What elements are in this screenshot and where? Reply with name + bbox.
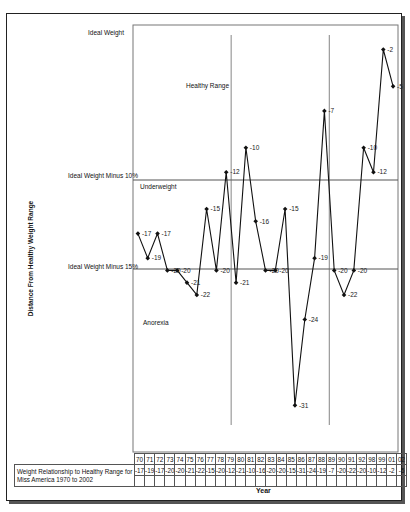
data-point-marker [234, 280, 239, 285]
ideal-weight-label: Ideal Weight [88, 29, 124, 36]
table-year-cell: 71 [145, 454, 155, 465]
table-empty-cell [367, 476, 377, 487]
data-point-marker [155, 231, 160, 236]
data-point-marker [322, 109, 327, 114]
y-axis-label: Distance From Healthy Weight Range [27, 179, 34, 339]
table-value-cell: -19 [145, 465, 155, 476]
data-label: -20 [358, 267, 368, 274]
table-year-cell: 91 [346, 454, 356, 465]
table-value-cell: -31 [296, 465, 306, 476]
data-point-marker [145, 256, 150, 261]
table-empty-cell [236, 476, 246, 487]
data-label: -20 [338, 267, 348, 274]
table-value-cell: -20 [357, 465, 367, 476]
table-value-cell: -20 [336, 465, 346, 476]
table-empty-cell [145, 476, 155, 487]
table-row-header: Weight Relationship to Healthy Range for… [15, 465, 135, 487]
table-value-cell: -24 [306, 465, 316, 476]
table-year-cell: 82 [256, 454, 266, 465]
minus15-label: Ideal Weight Minus 15% [68, 263, 138, 270]
data-point-marker [312, 256, 317, 261]
data-point-marker [381, 47, 386, 52]
table-empty-cell [387, 476, 397, 487]
table-year-cell: 01 [387, 454, 397, 465]
table-value-cell: -20 [266, 465, 276, 476]
healthy-range-label: Healthy Range [186, 82, 229, 89]
series-line [138, 50, 393, 406]
table-value-cell: -20 [215, 465, 225, 476]
data-label: -17 [162, 230, 172, 237]
table-value-cell: -12 [225, 465, 235, 476]
data-label: -7 [328, 107, 334, 114]
data-label: -12 [230, 168, 240, 175]
data-label: -15 [211, 205, 221, 212]
data-label: -16 [260, 218, 270, 225]
table-year-cell: 02 [397, 454, 407, 465]
data-label: -10 [250, 144, 260, 151]
data-label: -22 [348, 291, 358, 298]
table-value-cell: -7 [327, 465, 337, 476]
data-table: 7071727374757677787980818283848586878889… [14, 453, 407, 487]
table-year-cell: 85 [286, 454, 296, 465]
table-value-cell: -20 [165, 465, 175, 476]
table-year-cell: 81 [246, 454, 256, 465]
table-empty-cell [346, 476, 356, 487]
table-empty-cell [225, 476, 235, 487]
x-axis-label: Year [256, 487, 271, 494]
table-year-cell: 84 [276, 454, 286, 465]
table-empty-cell [296, 476, 306, 487]
data-point-marker [342, 293, 347, 298]
table-year-cell: 72 [155, 454, 165, 465]
table-year-cell: 83 [266, 454, 276, 465]
table-year-cell: 90 [336, 454, 346, 465]
data-point-marker [283, 207, 288, 212]
table-year-cell: 88 [316, 454, 326, 465]
table-value-cell: -5 [397, 465, 407, 476]
table-value-cell: -16 [256, 465, 266, 476]
table-year-cell: 76 [195, 454, 205, 465]
data-point-marker [136, 231, 141, 236]
data-label: -15 [289, 205, 299, 212]
table-empty-cell [256, 476, 266, 487]
data-point-marker [391, 84, 396, 89]
table-empty-cell [135, 476, 145, 487]
table-empty-cell [397, 476, 407, 487]
data-point-marker [204, 207, 209, 212]
table-value-cell: -15 [286, 465, 296, 476]
data-label: -10 [368, 144, 378, 151]
data-point-marker [302, 317, 307, 322]
table-value-cell: -22 [346, 465, 356, 476]
table-empty-cell [175, 476, 185, 487]
table-value-cell: -17 [155, 465, 165, 476]
table-empty-cell [215, 476, 225, 487]
table-year-cell: 92 [357, 454, 367, 465]
table-value-cell: -10 [246, 465, 256, 476]
table-empty-cell [165, 476, 175, 487]
data-label: -20 [220, 267, 230, 274]
table-year-cell: 75 [185, 454, 195, 465]
data-label: -21 [191, 279, 201, 286]
data-point-marker [224, 170, 229, 175]
table-year-cell: 70 [135, 454, 145, 465]
table-empty-cell [306, 476, 316, 487]
table-year-cell: 74 [175, 454, 185, 465]
data-label: -2 [387, 46, 393, 53]
table-empty-cell [195, 476, 205, 487]
data-label: -24 [309, 316, 319, 323]
table-year-cell: 79 [225, 454, 235, 465]
minus10-label: Ideal Weight Minus 10% [68, 172, 138, 179]
table-value-cell: -19 [316, 465, 326, 476]
table-empty-cell [377, 476, 387, 487]
table-empty-cell [185, 476, 195, 487]
table-value-cell: -22 [195, 465, 205, 476]
table-empty-cell [276, 476, 286, 487]
data-label: -12 [377, 168, 387, 175]
table-empty-cell [205, 476, 215, 487]
anorexia-label: Anorexia [143, 319, 169, 326]
table-year-cell: 99 [377, 454, 387, 465]
table-year-cell: 73 [165, 454, 175, 465]
table-empty-cell [155, 476, 165, 487]
table-value-cell: -21 [236, 465, 246, 476]
underweight-label: Underweight [140, 183, 177, 190]
table-value-cell: -20 [175, 465, 185, 476]
